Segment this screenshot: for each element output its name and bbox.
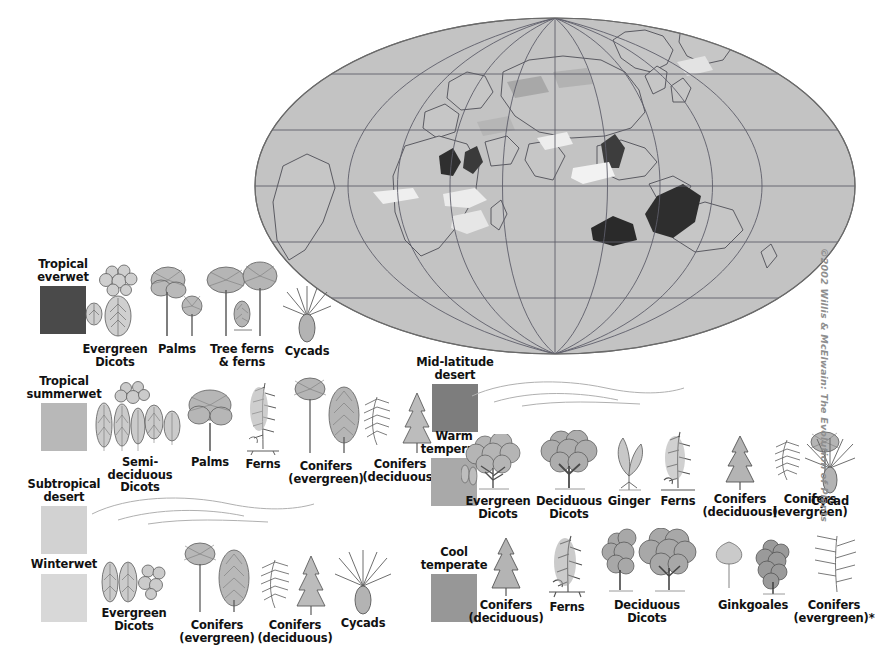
plant-conifers-evergreen-frond: Conifers (evergreen)* xyxy=(792,534,876,624)
deciduous-dicots-icon xyxy=(533,430,605,494)
plant-palms-2: Palms xyxy=(182,385,238,469)
plant-label: Conifers (evergreen) xyxy=(284,460,368,485)
ginkgoales-icon xyxy=(705,538,801,598)
plant-conifers-deciduous-3: Conifers (deciduous) xyxy=(702,434,778,518)
plant-conifers-deciduous-4: Conifers (deciduous) xyxy=(466,536,546,624)
legend-row-tropical-everwet: Tropical everwet Everg xyxy=(0,258,330,366)
zone-label: Winterwet xyxy=(24,558,104,571)
plant-evergreen-dicots-2: Evergreen Dicots xyxy=(96,558,172,632)
plant-label: Conifers (deciduous) xyxy=(256,619,334,644)
plant-label: Conifers (evergreen) xyxy=(176,619,258,644)
plant-label: Evergreen Dicots xyxy=(96,607,172,632)
plant-ferns-3: Ferns xyxy=(538,534,596,614)
desert-dunes-icon-2 xyxy=(468,376,688,410)
zone-winterwet: Winterwet xyxy=(24,558,104,622)
plant-deciduous-dicots-2: Deciduous Dicots xyxy=(592,528,702,624)
cycads-icon xyxy=(279,282,335,344)
plant-label: Deciduous Dicots xyxy=(592,599,702,624)
ginger-icon xyxy=(603,436,655,494)
legend-row-tropical-summerwet: Tropical summerwet xyxy=(0,375,420,490)
tree-ferns-icon xyxy=(204,258,280,342)
zone-swatch xyxy=(41,403,87,451)
legend-row-warm-temperate: Warm temperate xyxy=(404,430,859,526)
plant-label: Palms xyxy=(182,456,238,469)
plant-semi-deciduous-dicots: Semi-deciduous Dicots xyxy=(92,381,188,494)
plant-label: Conifers (evergreen)* xyxy=(792,599,876,624)
plant-ginger: Ginger xyxy=(602,436,656,508)
legend-row-winterwet: Winterwet Evergreen Dicots xyxy=(0,540,400,640)
ferns-icon xyxy=(539,534,595,600)
ferns-icon xyxy=(235,379,291,457)
plant-conifers-deciduous-2: Conifers (deciduous) xyxy=(256,552,334,644)
plant-ferns-2: Ferns xyxy=(650,430,706,508)
plant-label: Conifers (deciduous) xyxy=(466,599,546,624)
plant-label: Cycads xyxy=(332,617,394,630)
semi-deciduous-dicots-icon xyxy=(94,381,186,455)
plant-label: Palms xyxy=(148,343,206,356)
plant-label: Cycad xyxy=(802,495,858,508)
world-map xyxy=(253,16,857,356)
plant-label: Ginkgoales xyxy=(704,599,802,612)
plant-label: Evergreen Dicots xyxy=(460,495,536,520)
plant-deciduous-dicots: Deciduous Dicots xyxy=(532,430,606,520)
copyright-credit: ©2002 Willis & McElwain: The Evolution o… xyxy=(819,248,830,498)
deciduous-dicots-icon xyxy=(593,528,701,598)
plant-conifers-evergreen: Conifers (evergreen) xyxy=(284,375,368,485)
zone-swatch xyxy=(41,574,87,622)
plant-cycad: Cycad xyxy=(802,436,858,508)
plant-cycads: Cycads xyxy=(278,282,336,358)
plant-label: Evergreen Dicots xyxy=(78,343,152,368)
plant-cycads-2: Cycads xyxy=(332,548,394,630)
plant-label: Deciduous Dicots xyxy=(532,495,606,520)
ferns-icon xyxy=(651,430,705,494)
plant-evergreen-dicots-tree: Evergreen Dicots xyxy=(460,434,536,520)
plant-label: Cycads xyxy=(278,345,336,358)
palms-icon xyxy=(148,262,206,342)
plant-evergreen-dicots: Evergreen Dicots xyxy=(78,264,152,368)
plant-conifers-evergreen-2: Conifers (evergreen) xyxy=(176,540,258,644)
conifers-deciduous-icon xyxy=(481,536,531,598)
cycads-icon xyxy=(803,436,857,494)
plant-label: Ginger xyxy=(602,495,656,508)
evergreen-dicots-icon xyxy=(98,558,170,606)
plant-ginkgoales: Ginkgoales xyxy=(704,538,802,612)
desert-dunes-icon xyxy=(88,492,318,528)
plant-label: Ferns xyxy=(538,601,596,614)
plant-tree-ferns: Tree ferns & ferns xyxy=(204,258,280,368)
plant-label: Ferns xyxy=(650,495,706,508)
cycads-icon xyxy=(333,548,393,616)
legend-row-cool-temperate: Cool temperate Conifers (deciduous) xyxy=(404,528,859,638)
plant-label: Conifers (deciduous) xyxy=(702,493,778,518)
evergreen-dicots-tree-icon xyxy=(461,434,535,494)
plant-label: Tree ferns & ferns xyxy=(204,343,280,368)
conifers-evergreen-frond-icon xyxy=(803,534,865,598)
conifers-evergreen-icon xyxy=(286,375,366,459)
conifers-deciduous-icon xyxy=(715,434,765,492)
plant-palms: Palms xyxy=(148,262,206,356)
conifers-deciduous-icon xyxy=(257,552,333,618)
evergreen-dicots-icon xyxy=(82,264,148,342)
plant-label: Semi-deciduous Dicots xyxy=(92,456,188,494)
conifers-evergreen-icon xyxy=(178,540,256,618)
palms-icon xyxy=(183,385,237,455)
